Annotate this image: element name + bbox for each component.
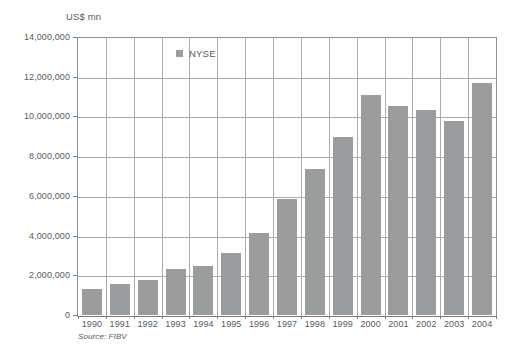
x-axis-tick-mark [134,316,135,319]
x-axis-tick-label: 1990 [78,319,106,329]
bar-2001 [388,106,408,315]
x-axis-tick-mark [189,316,190,319]
y-axis-tick-label: 2,000,000 [29,270,70,280]
bar-1992 [138,280,158,315]
x-axis-tick-mark [440,316,441,319]
bars-layer [78,37,495,315]
y-axis-tick-label: 12,000,000 [24,72,70,82]
x-axis-tick-label: 2001 [385,319,413,329]
x-axis-tick-mark [106,316,107,319]
y-axis-tick-label: 4,000,000 [29,231,70,241]
x-axis-tick-label: 2003 [440,319,468,329]
bar-1993 [166,269,186,315]
bar-chart-figure: US$ mn 02,000,0004,000,0006,000,0008,000… [0,0,509,356]
x-axis-tick-mark [245,316,246,319]
x-axis-tick-mark [385,316,386,319]
legend-swatch-nyse [176,50,183,57]
y-axis-tick-labels: 02,000,0004,000,0006,000,0008,000,00010,… [0,37,70,315]
y-axis-tick-mark [73,116,77,117]
source-note: Source: FIBV [78,332,127,341]
bar-2003 [444,121,464,315]
chart-legend: NYSE [176,48,216,59]
y-axis-tick-label: 6,000,000 [29,191,70,201]
x-axis-tick-mark [412,316,413,319]
x-axis-tick-mark [301,316,302,319]
bar-1994 [193,266,213,315]
y-axis-tick-label: 14,000,000 [24,32,70,42]
x-axis-tick-mark [496,316,497,319]
legend-label-nyse: NYSE [189,48,216,59]
x-axis-tick-label: 1998 [301,319,329,329]
bar-1998 [305,169,325,315]
bar-1996 [249,233,269,315]
y-axis-unit-title: US$ mn [66,11,101,22]
bar-2002 [416,110,436,315]
bar-1997 [277,199,297,315]
x-axis-tick-label: 1991 [106,319,134,329]
x-axis-tick-label: 1999 [329,319,357,329]
y-axis-tick-mark [73,236,77,237]
y-axis-tick-label: 0 [65,310,70,320]
x-axis-tick-mark [78,316,79,319]
x-axis-tick-mark [217,316,218,319]
x-axis-tick-label: 2000 [357,319,385,329]
x-axis-tick-label: 1992 [134,319,162,329]
y-axis-tick-mark [73,156,77,157]
x-axis-tick-mark [329,316,330,319]
y-axis-tick-label: 8,000,000 [29,151,70,161]
x-axis-tick-label: 1997 [273,319,301,329]
y-axis-tick-mark [73,315,77,316]
bar-2000 [361,95,381,315]
x-axis-tick-mark [357,316,358,319]
bar-1990 [82,289,102,315]
bar-1991 [110,284,130,315]
x-axis-tick-label: 1994 [189,319,217,329]
x-axis-tick-label: 1993 [162,319,190,329]
x-axis-tick-mark [162,316,163,319]
bar-2004 [472,83,492,315]
x-axis-tick-label: 1995 [217,319,245,329]
x-axis-tick-mark [468,316,469,319]
x-axis-tick-label: 2004 [468,319,496,329]
y-axis-tick-mark [73,275,77,276]
x-axis-tick-label: 1996 [245,319,273,329]
y-axis-tick-mark [73,77,77,78]
bar-1999 [333,137,353,315]
y-axis-tick-label: 10,000,000 [24,111,70,121]
y-axis-tick-mark [73,196,77,197]
x-axis-tick-labels: 1990199119921993199419951996199719981999… [78,319,495,333]
bar-1995 [221,253,241,315]
x-axis-tick-label: 2002 [412,319,440,329]
x-axis-tick-mark [273,316,274,319]
y-axis-tick-mark [73,37,77,38]
